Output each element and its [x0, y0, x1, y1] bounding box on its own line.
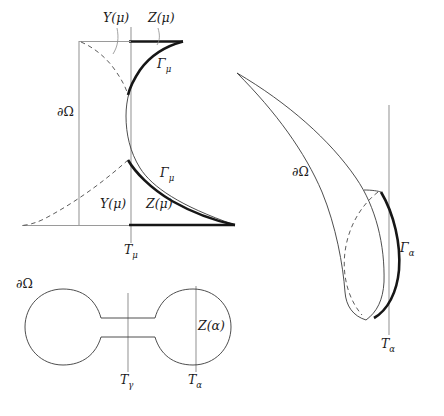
gamma-alpha-top-join: [364, 190, 381, 192]
panel-top-left: Y(μ) Z(μ) Γμ ∂Ω Γμ Y(μ) Z(μ) Tμ: [22, 10, 235, 260]
label-y-mu-bottom: Y(μ): [100, 196, 126, 211]
label-omega-right: ∂Ω: [292, 164, 309, 179]
gamma-mu-upper-sub: μ: [166, 64, 172, 74]
label-gamma-mu-lower: Γμ: [159, 165, 175, 183]
y-mu-lower-dashed-curve: [22, 160, 128, 226]
t-alpha-right-sub: α: [389, 344, 395, 354]
panel-bottom-left: ∂Ω Z(α) Tγ Tα: [16, 276, 231, 390]
mathematical-figure: Y(μ) Z(μ) Γμ ∂Ω Γμ Y(μ) Z(μ) Tμ: [0, 0, 444, 416]
label-t-alpha-right: Tα: [381, 336, 395, 354]
gamma-mu-upper-bold-arc: [128, 42, 183, 96]
label-t-mu: Tμ: [124, 242, 138, 260]
gamma-alpha-sub: α: [409, 248, 415, 258]
crescent-outer-boundary: [237, 73, 384, 320]
gamma-mu-lower-sub: μ: [169, 173, 175, 183]
gamma-mu-lower-bold-arc: [128, 160, 235, 225]
label-gamma-mu-upper: Γμ: [156, 56, 172, 74]
t-alpha-bottom-sub: α: [196, 380, 202, 390]
y-mu-upper-dashed-curve: [81, 42, 128, 95]
label-t-alpha-bottom: Tα: [188, 372, 202, 390]
label-z-mu-top: Z(μ): [147, 10, 175, 25]
dumbbell-left-lobe: [25, 289, 101, 365]
label-omega-left: ∂Ω: [57, 104, 74, 119]
t-gamma-sub: γ: [128, 380, 134, 390]
label-omega-dumbbell: ∂Ω: [16, 276, 33, 291]
t-mu-sub: μ: [132, 250, 138, 260]
label-t-gamma: Tγ: [120, 372, 134, 390]
panel-right: ∂Ω Γα Tα: [237, 73, 415, 354]
label-y-mu-top: Y(μ): [103, 10, 129, 25]
gamma-alpha-bold-arc: [374, 192, 399, 318]
label-z-mu-bottom: Z(μ): [145, 196, 173, 211]
s-curve-thin: [126, 42, 235, 226]
label-gamma-alpha: Γα: [399, 240, 415, 258]
label-z-alpha: Z(α): [197, 318, 225, 333]
crescent-inner-boundary: [237, 73, 366, 320]
figure-canvas: Y(μ) Z(μ) Γμ ∂Ω Γμ Y(μ) Z(μ) Tμ: [0, 0, 444, 416]
